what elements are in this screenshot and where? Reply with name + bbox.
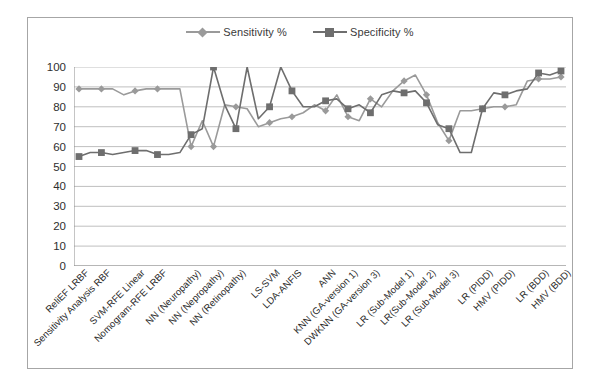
data-point-marker: [75, 85, 82, 92]
y-tick-label: 80: [26, 101, 66, 113]
data-point-marker: [344, 113, 351, 120]
data-point-marker: [367, 109, 374, 116]
data-point-marker: [210, 67, 217, 70]
x-axis-tick-labels: ReliEF LRBFSensitivity Analysis RBFSVM-R…: [74, 267, 566, 370]
data-point-marker: [210, 143, 217, 150]
y-tick-label: 30: [26, 200, 66, 212]
data-point-marker: [558, 68, 565, 75]
y-tick-label: 20: [26, 220, 66, 232]
y-tick-label: 70: [26, 121, 66, 133]
data-point-marker: [289, 87, 296, 94]
data-point-marker: [98, 149, 105, 156]
data-point-marker: [501, 103, 508, 110]
data-point-marker: [98, 85, 105, 92]
data-point-marker: [401, 89, 408, 96]
y-tick-label: 100: [26, 61, 66, 73]
data-point-marker: [423, 91, 430, 98]
data-point-marker: [76, 153, 83, 160]
cropped-caption-artifact: [0, 0, 601, 9]
data-point-marker: [154, 151, 161, 158]
chart-svg: [74, 67, 566, 266]
data-point-marker: [535, 70, 542, 77]
y-tick-label: 60: [26, 141, 66, 153]
data-point-marker: [232, 103, 239, 110]
data-point-marker: [187, 143, 194, 150]
data-point-marker: [266, 119, 273, 126]
chart-container: Sensitivity % Specificity % 100908070605…: [27, 17, 573, 369]
data-point-marker: [131, 87, 138, 94]
data-point-marker: [423, 99, 430, 106]
plot-area-wrapper: 1009080706050403020100 ReliEF LRBFSensit…: [28, 18, 574, 370]
y-tick-label: 40: [26, 180, 66, 192]
data-point-marker: [154, 85, 161, 92]
y-tick-label: 10: [26, 240, 66, 252]
data-point-marker: [446, 125, 453, 132]
data-point-marker: [322, 97, 329, 104]
data-point-marker: [288, 113, 295, 120]
y-tick-label: 0: [26, 260, 66, 272]
data-point-marker: [266, 103, 273, 110]
data-point-marker: [502, 91, 509, 98]
y-tick-label: 50: [26, 161, 66, 173]
data-point-marker: [233, 125, 240, 132]
data-point-marker: [188, 131, 195, 138]
y-tick-label: 90: [26, 81, 66, 93]
plot-area: [74, 67, 566, 266]
data-point-marker: [132, 147, 139, 154]
data-point-marker: [345, 105, 352, 112]
data-point-marker: [479, 105, 486, 112]
data-point-marker: [557, 73, 564, 80]
